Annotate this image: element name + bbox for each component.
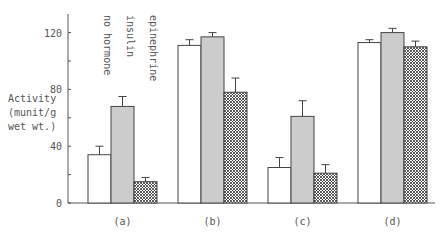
category-label: (b) <box>203 216 221 227</box>
y-label-line: Activity <box>8 92 56 106</box>
y-axis-label: Activity (munit/g wet wt.) <box>8 92 56 134</box>
category-label: (c) <box>293 216 311 227</box>
category-label: (a) <box>113 216 131 227</box>
bar-chart-svg: 04080120(a)(b)(c)(d)no hormoneinsulinepi… <box>0 0 439 236</box>
category-label: (d) <box>383 216 401 227</box>
y-label-line: wet wt.) <box>8 120 56 134</box>
bar <box>178 45 201 203</box>
bar <box>381 33 404 203</box>
bar <box>291 116 314 203</box>
bar <box>358 43 381 203</box>
y-tick-label: 120 <box>44 28 62 39</box>
legend-label: no hormone <box>102 15 113 75</box>
bar <box>224 92 247 203</box>
bar <box>404 47 427 203</box>
bar <box>314 173 337 203</box>
y-tick-label: 40 <box>50 141 62 152</box>
bar <box>111 106 134 203</box>
bar <box>88 155 111 203</box>
bar <box>268 168 291 204</box>
legend-label: insulin <box>125 15 136 57</box>
y-label-line: (munit/g <box>8 106 56 120</box>
y-tick-label: 0 <box>56 198 62 209</box>
chart: 04080120(a)(b)(c)(d)no hormoneinsulinepi… <box>0 0 439 236</box>
legend-label: epinephrine <box>148 15 159 81</box>
bar <box>134 182 157 203</box>
bar <box>201 37 224 203</box>
